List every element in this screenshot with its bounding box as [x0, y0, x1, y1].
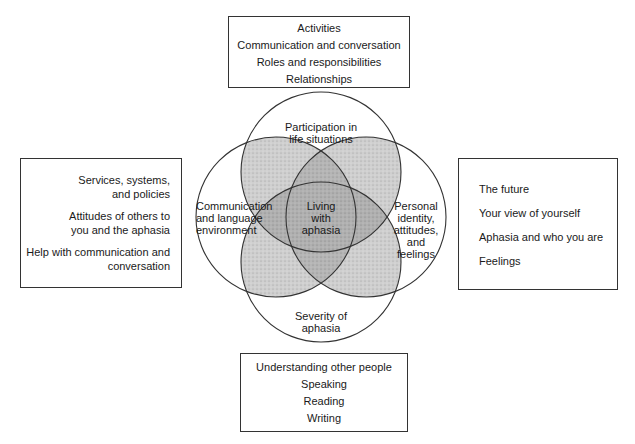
box-item: Relationships: [229, 71, 409, 88]
box-item: Writing: [241, 410, 407, 427]
label-line: Participation in: [271, 121, 371, 133]
circle-label-right: Personal identity, attitudes, and feelin…: [390, 200, 442, 260]
label-line: Living: [296, 200, 346, 212]
box-item: Communication and conversation: [229, 37, 409, 54]
box-item: Speaking: [241, 376, 407, 393]
label-line: aphasia: [296, 224, 346, 236]
box-item-line: conversation: [21, 259, 170, 273]
box-item: Reading: [241, 393, 407, 410]
label-line: and language: [196, 212, 276, 224]
box-identity-details: The future Your view of yourself Aphasia…: [458, 158, 618, 290]
circle-label-bottom: Severity of aphasia: [281, 310, 361, 334]
label-line: Communication: [196, 200, 276, 212]
box-item: Services, systems, and policies: [21, 173, 170, 201]
label-line: identity,: [390, 212, 442, 224]
label-line: aphasia: [281, 322, 361, 334]
box-item-line: and policies: [21, 187, 170, 201]
box-item: Your view of yourself: [479, 201, 617, 225]
box-item-line: Help with communication and: [21, 245, 170, 259]
box-severity-details: Understanding other people Speaking Read…: [240, 353, 408, 432]
box-item: Help with communication and conversation: [21, 245, 170, 273]
box-item-line: you and the aphasia: [21, 223, 170, 237]
label-line: Personal: [390, 200, 442, 212]
circle-label-top: Participation in life situations: [271, 121, 371, 145]
box-item: Roles and responsibilities: [229, 54, 409, 71]
box-item-line: Services, systems,: [21, 173, 170, 187]
label-line: Severity of: [281, 310, 361, 322]
box-item: Activities: [229, 20, 409, 37]
center-label: Living with aphasia: [296, 200, 346, 236]
label-line: and: [390, 236, 442, 248]
label-line: with: [296, 212, 346, 224]
label-line: attitudes,: [390, 224, 442, 236]
box-item: Aphasia and who you are: [479, 225, 617, 249]
box-item-line: Attitudes of others to: [21, 209, 170, 223]
box-item: The future: [479, 177, 617, 201]
box-item: Feelings: [479, 249, 617, 273]
box-item: Attitudes of others to you and the aphas…: [21, 209, 170, 237]
label-line: environment: [196, 224, 276, 236]
box-participation-details: Activities Communication and conversatio…: [228, 16, 410, 88]
label-line: feelings: [390, 248, 442, 260]
label-line: life situations: [271, 133, 371, 145]
circle-label-left: Communication and language environment: [196, 200, 276, 236]
box-environment-details: Services, systems, and policies Attitude…: [20, 158, 182, 288]
box-item: Understanding other people: [241, 359, 407, 376]
